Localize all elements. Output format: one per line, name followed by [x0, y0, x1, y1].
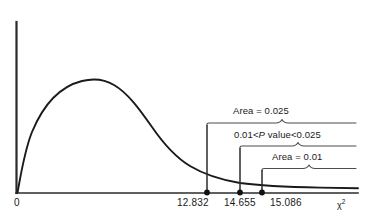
chi-exponent: 2 [342, 198, 346, 205]
chi-square-distribution-figure: Area = 0.025 0.01<P value<0.025 Area = 0… [0, 0, 365, 224]
annotation-rules-group [207, 120, 356, 172]
p-value-word: value [268, 129, 291, 140]
axis-marker-14655 [237, 190, 243, 196]
axis-marker-15086 [259, 190, 265, 196]
p-value-prefix: 0.01 [234, 129, 253, 140]
annotation-rule-area-01 [262, 165, 356, 171]
plot-canvas [0, 0, 365, 224]
x-axis-title: χ2 [337, 199, 345, 210]
axis-marker-12832 [204, 190, 210, 196]
p-value-symbol: P [259, 129, 265, 140]
annotation-label-area-01: Area = 0.01 [272, 152, 322, 162]
annotation-label-p-value: 0.01<P value<0.025 [234, 130, 321, 140]
axis-tick-label-15086: 15.086 [270, 198, 302, 208]
annotation-rule-p-value [240, 143, 356, 149]
p-value-suffix: 0.025 [297, 129, 321, 140]
annotation-label-area-025: Area = 0.025 [233, 106, 289, 116]
axis-tick-label-origin: 0 [14, 198, 20, 208]
axis-tick-label-12832: 12.832 [177, 198, 209, 208]
annotation-rule-area-025 [207, 120, 356, 126]
axis-tick-label-14655: 14.655 [224, 198, 256, 208]
